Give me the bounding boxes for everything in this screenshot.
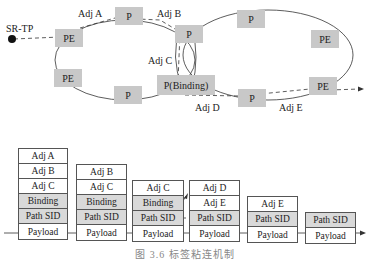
stack-cell: Binding: [133, 196, 183, 211]
node-pe-left-top: PE: [55, 29, 83, 47]
node-p-bottom-left: P: [114, 86, 142, 104]
label-adj-d: Adj D: [195, 102, 220, 113]
stack-cell: Payload: [133, 226, 183, 241]
label-adj-c: Adj C: [148, 55, 172, 66]
label-stack-4: Adj D Adj E Path SID Payload: [189, 180, 240, 242]
stack-cell: Adj D: [190, 181, 239, 196]
node-p-top-right: P: [237, 10, 265, 28]
stack-cell: Adj B: [19, 164, 67, 179]
label-stack-5: Adj E Path SID Payload: [247, 196, 298, 243]
sr-tp-label: SR-TP: [6, 23, 33, 34]
stack-cell: Adj E: [190, 196, 239, 211]
stack-cell: Adj C: [133, 181, 183, 196]
stack-cell: Path SID: [248, 212, 297, 227]
stack-cell: Adj A: [19, 149, 67, 164]
node-pe-left-bottom: PE: [54, 69, 82, 87]
source-dot: [8, 35, 16, 43]
stack-cell: Adj B: [77, 165, 126, 180]
stack-cell: Path SID: [77, 210, 126, 225]
label-adj-a: Adj A: [78, 8, 102, 19]
stack-cell: Adj C: [19, 179, 67, 194]
label-stack-2: Adj B Adj C Binding Path SID Payload: [76, 164, 127, 241]
stack-cell: Payload: [77, 225, 126, 240]
figure-caption: 图 3.6 标签粘连机制: [0, 246, 370, 261]
node-pe-right-top: PE: [311, 30, 339, 48]
stack-cell: Path SID: [133, 211, 183, 226]
node-p-binding: P(Binding): [157, 75, 215, 95]
label-adj-b: Adj B: [157, 8, 181, 19]
label-stack-6: Path SID Payload: [305, 212, 356, 244]
node-p-top-left: P: [115, 7, 143, 25]
node-p-center: P: [175, 25, 203, 43]
node-pe-right-bottom: PE: [309, 77, 337, 95]
label-stack-1: Adj A Adj B Adj C Binding Path SID Paylo…: [18, 148, 68, 240]
label-adj-e: Adj E: [279, 102, 303, 113]
stack-cell: Payload: [248, 227, 297, 242]
stack-cell: Path SID: [190, 211, 239, 226]
label-stack-3: Adj C Binding Path SID Payload: [132, 180, 184, 242]
stack-cell: Binding: [19, 194, 67, 209]
stack-cell: Adj C: [77, 180, 126, 195]
stack-cell: Adj E: [248, 197, 297, 212]
stack-cell: Path SID: [306, 213, 355, 228]
stack-cell: Path SID: [19, 209, 67, 224]
stack-cell: Payload: [306, 228, 355, 243]
stack-cell: Binding: [77, 195, 126, 210]
stack-cell: Payload: [190, 226, 239, 241]
node-p-bottom-right: P: [238, 89, 266, 107]
stack-cell: Payload: [19, 224, 67, 239]
